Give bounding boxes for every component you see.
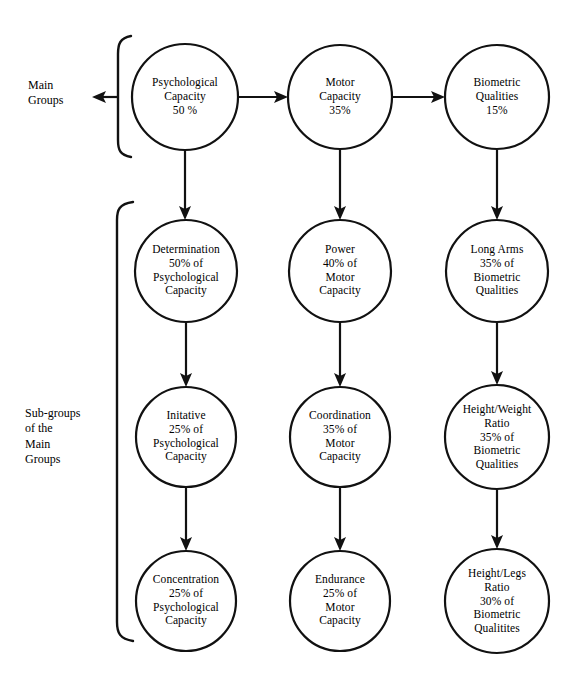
sub-groups-label: Sub-groupsof theMainGroups [25,406,80,467]
arrow-coordination-to-endurance [334,488,346,551]
node-circle-height-weight-ratio[interactable] [445,385,549,489]
arrow-height-weight-to-height-legs [491,490,503,549]
diagram-canvas: MainGroups Sub-groupsof theMainGroups Ps… [0,0,584,693]
node-circle-endurance[interactable] [290,551,390,651]
node-circle-height-legs-ratio[interactable] [445,549,549,653]
node-circle-determination[interactable] [135,220,237,322]
label-line-3: Groups [25,452,80,467]
node-circle-long-arms[interactable] [446,220,548,322]
arrow-power-to-coordination [334,323,346,387]
node-circle-power[interactable] [289,220,391,322]
arrow-psychological-to-motor [239,91,288,103]
node-circle-biometric-qualities[interactable] [445,45,549,149]
node-circle-concentration[interactable] [136,551,236,651]
arrow-motor-to-biometric [393,91,445,103]
main-groups-label: MainGroups [28,78,63,109]
arrow-long-arms-to-height-weight [491,323,503,385]
label-line-0: Main [28,78,63,93]
arrow-initative-to-concentration [180,488,192,551]
main-groups-pointer-arrow [92,91,118,103]
arrow-determination-to-initative [180,323,192,387]
arrow-biometric-to-long-arms [491,150,503,220]
arrow-motor-to-power [334,150,346,220]
node-circle-coordination[interactable] [290,387,390,487]
label-line-0: Sub-groups [25,406,80,421]
arrow-psychological-to-determination [179,151,191,220]
label-line-2: Main [25,437,80,452]
sub-groups-bracket [117,202,133,641]
node-circle-initative[interactable] [136,387,236,487]
label-line-1: of the [25,421,80,436]
node-circle-motor-capacity[interactable] [288,45,392,149]
label-line-1: Groups [28,93,63,108]
node-circle-psychological-capacity[interactable] [132,44,238,150]
diagram-vector-layer [0,0,584,693]
main-groups-bracket [118,36,131,157]
